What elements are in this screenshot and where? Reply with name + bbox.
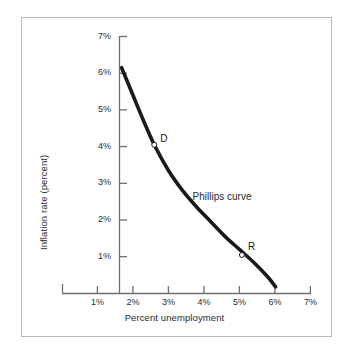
y-tick-label-7: 7% (85, 31, 111, 41)
x-tick-label-5: 5% (226, 297, 252, 307)
y-tick-label-4: 4% (85, 141, 111, 151)
x-tick-label-1: 1% (84, 297, 110, 307)
y-axis-title: Inflation rate (percent) (38, 155, 49, 250)
y-tick-label-5: 5% (85, 104, 111, 114)
phillips-curve-line (122, 68, 276, 287)
phillips-curve-figure: 7% 6% 5% 4% 3% 2% 1% 1% 2% 3% 4% 5% 6% 7… (0, 0, 349, 349)
x-tick-label-6: 6% (262, 297, 288, 307)
data-point-r-marker (239, 252, 244, 257)
x-tick-label-3: 3% (155, 297, 181, 307)
y-tick-label-2: 2% (85, 214, 111, 224)
x-tick-label-2: 2% (120, 297, 146, 307)
x-axis-ticks (97, 286, 310, 294)
data-point-label-r: R (248, 241, 255, 252)
y-tick-label-3: 3% (85, 177, 111, 187)
data-point-label-d: D (160, 133, 167, 144)
data-point-d-marker (152, 142, 157, 147)
x-tick-label-7: 7% (297, 297, 323, 307)
y-tick-label-1: 1% (85, 251, 111, 261)
x-axis-title: Percent unemployment (0, 312, 349, 323)
y-tick-label-6: 6% (85, 67, 111, 77)
x-tick-label-4: 4% (191, 297, 217, 307)
phillips-curve-annotation: Phillips curve (193, 191, 252, 202)
